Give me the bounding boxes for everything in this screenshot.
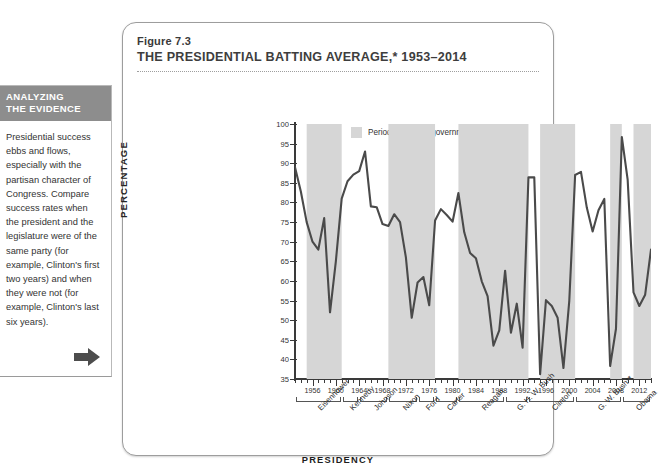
x-axis-tick-mark	[324, 379, 325, 383]
y-axis-tick-label: 40	[263, 355, 289, 364]
y-axis-tick-mark	[290, 359, 297, 360]
y-axis-tick-label: 80	[263, 198, 289, 207]
x-axis-tick-mark	[464, 379, 465, 383]
divided-government-bands	[307, 124, 651, 379]
title-divider	[137, 71, 539, 72]
figure-card: Figure 7.3 THE PRESIDENTIAL BATTING AVER…	[122, 22, 554, 456]
x-axis-tick-mark	[388, 379, 389, 383]
y-axis-tick-label: 60	[263, 277, 289, 286]
y-axis-tick-label: 85	[263, 179, 289, 188]
figure-number: Figure 7.3	[137, 35, 191, 47]
next-arrow-button[interactable]	[73, 346, 103, 372]
sidebar-body-text: Presidential success ebbs and flows, esp…	[0, 121, 111, 329]
x-axis-tick-mark	[493, 379, 494, 383]
y-axis-tick-label: 55	[263, 297, 289, 306]
x-axis-tick-mark	[581, 379, 582, 383]
x-axis-tick-mark	[453, 379, 454, 386]
y-axis-tick-mark	[290, 124, 297, 125]
x-axis-tick-mark	[365, 379, 366, 383]
y-axis-tick-mark	[290, 261, 297, 262]
x-axis-tick-mark	[383, 379, 384, 386]
x-axis-tick-mark	[423, 379, 424, 383]
x-axis-tick-mark	[435, 379, 436, 383]
x-axis-tick-mark	[394, 379, 395, 383]
x-axis-tick-mark	[295, 379, 296, 383]
right-arrow-icon	[73, 346, 101, 368]
x-axis-tick-mark	[330, 379, 331, 383]
x-axis-tick-mark	[558, 379, 559, 383]
y-axis-tick-label: 35	[263, 375, 289, 384]
x-axis-tick-mark	[587, 379, 588, 383]
x-axis-tick-mark	[499, 379, 500, 386]
y-axis-tick-mark	[290, 281, 297, 282]
x-axis-tick-mark	[598, 379, 599, 383]
x-axis-tick-mark	[418, 379, 419, 383]
y-axis-tick-mark	[290, 242, 297, 243]
x-axis-tick-mark	[307, 379, 308, 383]
x-axis-tick-mark	[645, 379, 646, 383]
x-axis-tick-mark	[523, 379, 524, 386]
y-axis-tick-label: 75	[263, 218, 289, 227]
x-axis-tick-mark	[575, 379, 576, 383]
x-axis-tick-mark	[511, 379, 512, 383]
y-axis-tick-label: 100	[263, 120, 289, 129]
y-axis-tick-mark	[290, 340, 297, 341]
x-axis-tick-mark	[318, 379, 319, 383]
y-axis-tick-mark	[290, 320, 297, 321]
y-axis-tick-mark	[290, 301, 297, 302]
x-axis-tick-mark	[447, 379, 448, 383]
x-axis-label: PRESIDENCY	[123, 455, 553, 465]
y-axis-tick-mark	[290, 202, 297, 203]
x-axis-tick-mark	[359, 379, 360, 386]
presidential-batting-average-line-chart	[295, 124, 651, 379]
y-axis-tick-label: 50	[263, 316, 289, 325]
y-axis-tick-label: 45	[263, 336, 289, 345]
x-axis-tick-mark	[441, 379, 442, 383]
x-axis-tick-mark	[593, 379, 594, 386]
x-axis-tick-mark	[400, 379, 401, 383]
x-axis-tick-mark	[301, 379, 302, 383]
divided-government-band	[540, 124, 575, 379]
x-axis-tick-mark	[476, 379, 477, 386]
x-axis-tick-mark	[482, 379, 483, 383]
x-axis-tick-mark	[412, 379, 413, 383]
x-axis-tick-mark	[377, 379, 378, 383]
y-axis-tick-mark	[290, 144, 297, 145]
chart-plot-area	[295, 124, 651, 379]
divided-government-band	[388, 124, 435, 379]
x-axis-tick-mark	[569, 379, 570, 386]
x-axis-tick-mark	[371, 379, 372, 383]
x-axis-tick-mark	[610, 379, 611, 383]
sidebar-heading-line2: THE EVIDENCE	[6, 103, 111, 115]
x-axis-tick-mark	[651, 379, 652, 383]
x-axis-tick-mark	[563, 379, 564, 383]
y-axis-tick-mark	[290, 222, 297, 223]
x-axis-tick-mark	[534, 379, 535, 383]
sidebar-heading: ANALYZING THE EVIDENCE	[0, 86, 111, 121]
x-axis-tick-mark	[406, 379, 407, 386]
x-axis-tick-mark	[639, 379, 640, 386]
x-axis-tick-mark	[429, 379, 430, 386]
x-axis-tick-mark	[488, 379, 489, 383]
x-axis-tick-mark	[517, 379, 518, 383]
y-axis-tick-mark	[290, 163, 297, 164]
sidebar-heading-line1: ANALYZING	[6, 91, 111, 103]
x-axis-tick-mark	[604, 379, 605, 383]
divided-government-band	[633, 124, 651, 379]
y-axis-tick-label: 95	[263, 140, 289, 149]
analyzing-the-evidence-panel: ANALYZING THE EVIDENCE Presidential succ…	[0, 85, 112, 377]
x-axis-tick-mark	[313, 379, 314, 386]
x-axis-tick-mark	[505, 379, 506, 383]
y-axis-tick-label: 70	[263, 238, 289, 247]
y-axis-tick-label: 65	[263, 257, 289, 266]
x-axis-tick-mark	[470, 379, 471, 383]
figure-title: THE PRESIDENTIAL BATTING AVERAGE,* 1953–…	[137, 50, 541, 64]
x-axis-tick-mark	[458, 379, 459, 383]
y-axis-tick-mark	[290, 183, 297, 184]
x-axis-tick-mark	[353, 379, 354, 383]
x-axis-tick-mark	[528, 379, 529, 383]
y-axis-label: PERCENTAGE	[118, 141, 129, 218]
y-axis-tick-label: 90	[263, 159, 289, 168]
